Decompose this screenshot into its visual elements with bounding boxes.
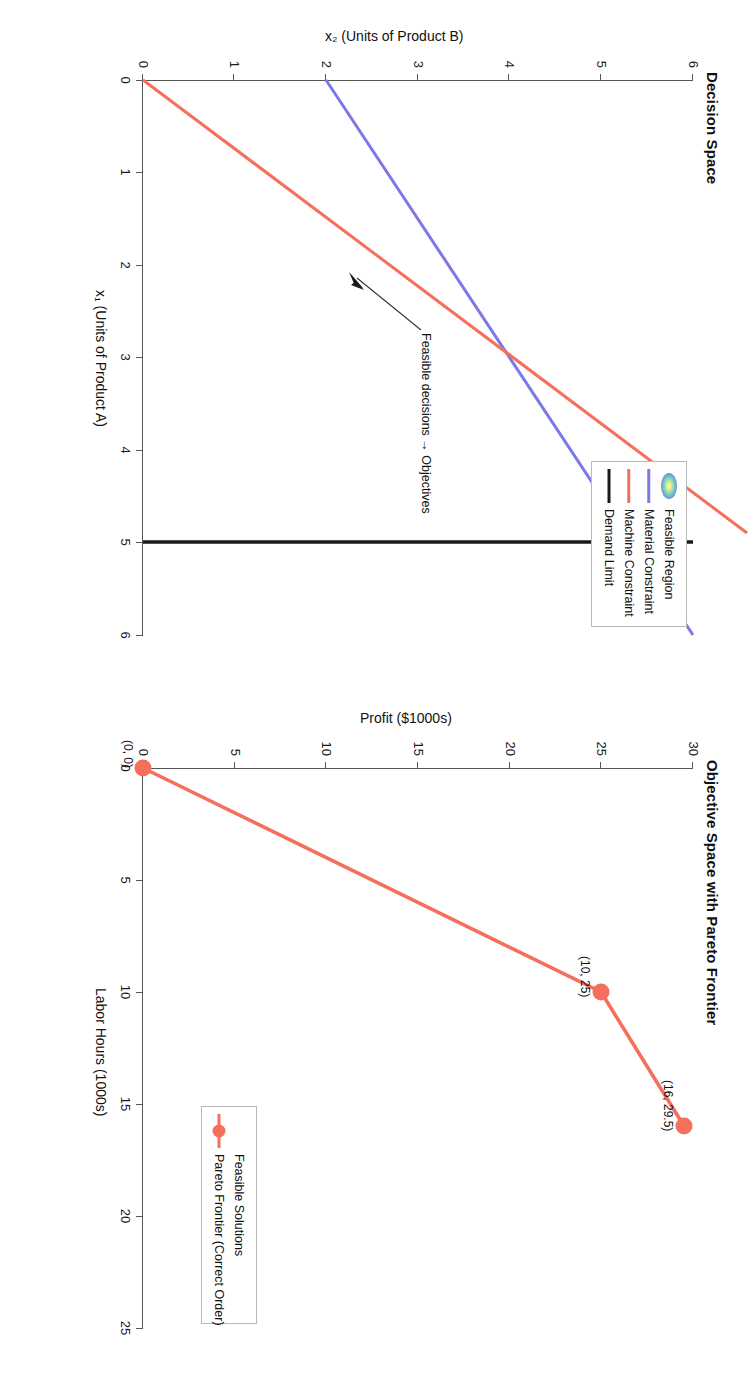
pareto-point-label-2: (16, 29.5) — [661, 1080, 675, 1131]
rotated-figure-canvas: Decision Space 0 1 2 3 4 5 6 — [0, 0, 755, 1376]
decision-x-axis-title: x₁ (Units of Product A) — [93, 290, 109, 427]
feasible-region-swatch-icon — [660, 469, 678, 503]
legend-label-demand-limit: Demand Limit — [602, 509, 616, 586]
decision-y-axis-title: x₂ (Units of Product B) — [325, 28, 463, 44]
pareto-point-label-1: (10, 25) — [578, 956, 592, 997]
figure: Decision Space 0 1 2 3 4 5 6 — [0, 0, 755, 1376]
demand-limit-line-icon — [600, 469, 618, 503]
material-constraint-line-icon — [640, 469, 658, 503]
pareto-frontier-line — [143, 768, 684, 1126]
objective-space-plot — [0, 688, 755, 1376]
legend-item-machine-constraint[interactable]: Machine Constraint — [619, 469, 639, 617]
legend-label-feasible-solutions: Feasible Solutions — [232, 1154, 246, 1256]
decision-space-panel: Decision Space 0 1 2 3 4 5 6 — [0, 0, 755, 688]
objective-space-legend[interactable]: Feasible Solutions Pareto Frontier (Corr… — [201, 1106, 257, 1324]
legend-label-machine-constraint: Machine Constraint — [622, 509, 636, 617]
objective-y-axis-title: Profit ($1000s) — [360, 710, 452, 726]
pareto-frontier-line-marker-icon — [210, 1114, 228, 1148]
decision-space-legend[interactable]: Feasible Region Material Constraint Mach… — [591, 461, 687, 627]
legend-label-pareto-frontier: Pareto Frontier (Correct Order) — [212, 1154, 226, 1326]
legend-item-demand-limit[interactable]: Demand Limit — [599, 469, 619, 617]
legend-label-feasible-region: Feasible Region — [662, 509, 676, 599]
pareto-point-0[interactable] — [135, 760, 152, 777]
pareto-point-2[interactable] — [676, 1118, 693, 1135]
pareto-point-label-0: (0, 0) — [121, 740, 135, 768]
annotation-leader-line — [357, 278, 421, 330]
legend-item-feasible-region[interactable]: Feasible Region — [659, 469, 679, 617]
legend-item-pareto-frontier[interactable]: Pareto Frontier (Correct Order) — [209, 1114, 229, 1314]
machine-constraint-line-icon — [620, 469, 638, 503]
feasible-solutions-blank-icon — [230, 1114, 248, 1148]
objective-x-axis-title: Labor Hours (1000s) — [93, 988, 109, 1116]
pareto-point-1[interactable] — [593, 984, 610, 1001]
legend-item-material-constraint[interactable]: Material Constraint — [639, 469, 659, 617]
decision-space-annotation: Feasible decisions → Objectives — [419, 333, 433, 514]
legend-item-feasible-solutions[interactable]: Feasible Solutions — [229, 1114, 249, 1314]
objective-space-panel: Objective Space with Pareto Frontier 0 5… — [0, 688, 755, 1376]
legend-label-material-constraint: Material Constraint — [642, 509, 656, 614]
